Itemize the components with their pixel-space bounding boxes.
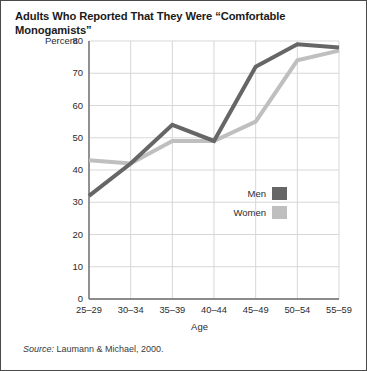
x-tick-label: 55–59 xyxy=(316,305,362,315)
x-tick-label: 50–54 xyxy=(274,305,320,315)
legend-label-women: Women xyxy=(220,207,266,218)
legend-swatch-men xyxy=(272,187,287,200)
y-tick-label: 60 xyxy=(57,100,83,111)
x-axis-title: Age xyxy=(1,321,367,332)
y-tick-label: 80 xyxy=(57,35,83,46)
x-tick-label: 35–39 xyxy=(149,305,195,315)
source-prefix: Source: xyxy=(23,344,54,354)
y-tick-label: 0 xyxy=(57,293,83,304)
x-tick-label: 25–29 xyxy=(66,305,112,315)
source-text: Laumann & Michael, 2000. xyxy=(54,344,164,354)
chart-figure: Adults Who Reported That They Were “Comf… xyxy=(0,0,367,371)
legend-item-men: Men xyxy=(220,187,287,200)
y-tick-label: 70 xyxy=(57,67,83,78)
x-axis-title-text: Age xyxy=(191,321,208,332)
x-tick-label: 40–44 xyxy=(191,305,237,315)
x-tick-label: 30–34 xyxy=(108,305,154,315)
chart-svg xyxy=(1,1,367,371)
gridlines xyxy=(89,41,339,299)
legend-item-women: Women xyxy=(220,206,287,219)
y-tick-label: 30 xyxy=(57,196,83,207)
y-tick-label: 20 xyxy=(57,229,83,240)
plot-area xyxy=(1,1,367,371)
legend-label-men: Men xyxy=(220,188,266,199)
y-tick-label: 40 xyxy=(57,164,83,175)
x-tick-label: 45–49 xyxy=(233,305,279,315)
source-note: Source: Laumann & Michael, 2000. xyxy=(23,344,164,354)
legend-swatch-women xyxy=(272,206,287,219)
y-tick-label: 10 xyxy=(57,261,83,272)
y-tick-label: 50 xyxy=(57,132,83,143)
